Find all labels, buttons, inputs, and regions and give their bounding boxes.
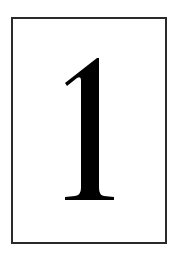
numeral-one-glyph xyxy=(0,0,176,258)
